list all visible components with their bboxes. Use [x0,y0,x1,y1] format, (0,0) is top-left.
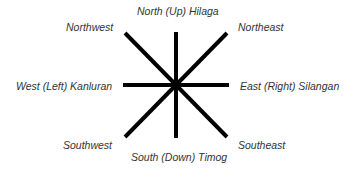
label-northeast: Northeast [238,21,284,33]
label-southwest: Southwest [63,139,112,151]
label-northwest: Northwest [66,21,113,33]
label-south: South (Down) Timog [131,151,227,163]
compass-diagram: North (Up) Hilaga Northwest Northeast We… [0,0,352,172]
label-east: East (Right) Silangan [240,80,339,92]
label-west: West (Left) Kanluran [16,80,112,92]
label-north: North (Up) Hilaga [137,5,219,17]
label-southeast: Southeast [238,139,285,151]
